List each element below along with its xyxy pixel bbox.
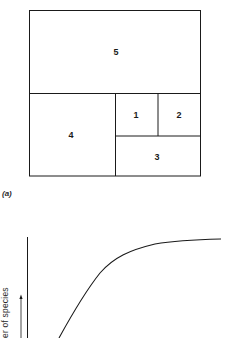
region-label-2: 2 — [176, 110, 181, 120]
species-area-curve — [59, 239, 221, 338]
panel-a-region-labels: 5 4 1 2 3 — [68, 47, 181, 162]
region-label-1: 1 — [133, 110, 138, 120]
region-label-5: 5 — [113, 47, 118, 57]
region-label-3: 3 — [154, 152, 159, 162]
figure: 5 4 1 2 3 (a) er of species — [0, 0, 230, 338]
arrow-up-icon — [19, 295, 22, 300]
y-axis-label: er of species — [0, 287, 10, 338]
panel-a-diagram — [30, 11, 201, 177]
panel-a-label: (a) — [2, 189, 12, 198]
figure-svg: 5 4 1 2 3 — [0, 0, 230, 338]
region-label-4: 4 — [68, 130, 73, 140]
panel-b-plot — [19, 237, 221, 338]
